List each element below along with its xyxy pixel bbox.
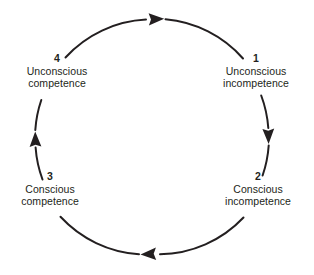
- stage-label-3: 3 Conscious competence: [21, 171, 79, 207]
- arrow-top-head-icon: [149, 13, 165, 25]
- stage-4-number: 4: [27, 53, 88, 65]
- stage-3-number: 3: [21, 171, 79, 183]
- stage-2-line1: Conscious: [225, 184, 291, 196]
- arrow-right-head-icon: [262, 129, 274, 144]
- stage-label-1: 1 Unconscious incompetence: [223, 53, 289, 89]
- arrow-left-head-icon: [30, 132, 42, 147]
- arc-segment-lower-left: [61, 217, 140, 254]
- competence-cycle-diagram: 1 Unconscious incompetence 2 Conscious i…: [0, 0, 314, 275]
- arc-segment-upper-left: [66, 20, 147, 58]
- arc-segment-right-upper: [261, 96, 268, 129]
- stage-1-number: 1: [223, 53, 289, 65]
- arc-segment-left-upper: [35, 100, 41, 130]
- arc-segment-lower-right: [160, 218, 244, 255]
- stage-2-number: 2: [225, 171, 291, 183]
- cycle-arcs-svg: [0, 0, 314, 275]
- stage-label-2: 2 Conscious incompetence: [225, 171, 291, 207]
- stage-4-line1: Unconscious: [27, 66, 88, 78]
- stage-4-line2: competence: [27, 78, 88, 90]
- stage-3-line2: competence: [21, 196, 79, 208]
- stage-2-line2: incompetence: [225, 196, 291, 208]
- stage-3-line1: Conscious: [21, 184, 79, 196]
- arrow-bottom-head-icon: [141, 248, 157, 260]
- stage-1-line2: incompetence: [223, 78, 289, 90]
- stage-label-4: 4 Unconscious competence: [27, 53, 88, 89]
- stage-1-line1: Unconscious: [223, 66, 289, 78]
